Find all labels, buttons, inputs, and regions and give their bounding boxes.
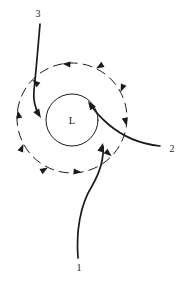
ring-arrow-lower-left: [18, 143, 27, 153]
ring-arrow-upper-right: [118, 83, 127, 93]
trajectory-1-arrowhead: [97, 142, 106, 152]
diagram-canvas: L 3 2 1: [0, 0, 186, 282]
trajectory-1-path: [78, 146, 104, 258]
trajectory-2-label: 2: [170, 143, 175, 154]
trajectory-1-label: 1: [77, 262, 82, 273]
low-center-label: L: [69, 115, 75, 126]
ring-arrow-bottom-right: [104, 149, 114, 159]
trajectory-3-arrowhead: [33, 109, 44, 120]
trajectory-3-path: [34, 24, 40, 115]
ring-arrow-bottom-left: [39, 165, 49, 174]
ring-arrow-left: [15, 110, 23, 119]
trajectory-2-path: [90, 104, 160, 146]
ring-arrow-top: [62, 61, 70, 68]
trajectory-3-label: 3: [36, 8, 41, 19]
ring-arrow-right: [122, 117, 130, 126]
ring-arrow-bottom: [73, 168, 81, 175]
ring-arrow-top-right: [95, 62, 105, 71]
